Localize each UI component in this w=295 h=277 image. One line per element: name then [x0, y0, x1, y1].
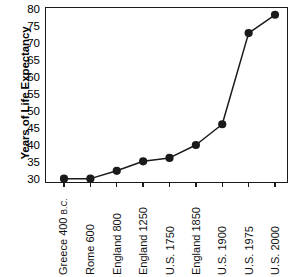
data-point-marker [192, 141, 200, 149]
x-tick-label: Rome 600 [83, 188, 97, 277]
y-tick-label: 55 [16, 89, 40, 100]
x-tick-label-text: U.S. 1975 [243, 226, 254, 275]
x-tick-label-text: U.S. 2000 [270, 226, 281, 275]
y-tick-label: 35 [16, 157, 40, 168]
x-tick-label-text: Rome 600 [85, 224, 96, 275]
x-tick-label: U.S. 1975 [242, 188, 256, 277]
y-tick-label: 45 [16, 123, 40, 134]
data-point-marker [139, 157, 147, 165]
x-tick-mark [169, 183, 170, 187]
x-tick-mark [195, 183, 196, 187]
x-tick-label: England 1850 [189, 188, 203, 277]
x-tick-mark [274, 183, 275, 187]
x-tick-label-text: U.S. 1750 [164, 226, 175, 275]
x-tick-label-text: England 800 [111, 213, 122, 275]
data-point-marker [271, 11, 279, 19]
data-point-marker [113, 167, 121, 175]
x-tick-mark [142, 183, 143, 187]
x-tick-label-text: Greece 400 B.C. [58, 198, 70, 275]
x-tick-label: England 1250 [136, 188, 150, 277]
x-tick-label: U.S. 1900 [215, 188, 229, 277]
x-tick-mark [116, 183, 117, 187]
data-point-marker [165, 154, 173, 162]
x-tick-mark [90, 183, 91, 187]
series-markers [60, 11, 279, 183]
y-tick-label: 60 [16, 72, 40, 83]
data-point-marker [245, 29, 253, 37]
y-axis-tick-labels: 8075706560555045403530 [16, 0, 40, 190]
data-point-marker [60, 175, 68, 183]
y-tick-label: 80 [16, 4, 40, 15]
x-tick-label-text: England 1250 [138, 207, 149, 275]
x-tick-label: U.S. 1750 [163, 188, 177, 277]
y-tick-label: 40 [16, 140, 40, 151]
x-tick-mark [248, 183, 249, 187]
y-tick-label: 65 [16, 55, 40, 66]
x-tick-label: England 800 [110, 188, 124, 277]
x-tick-label: Greece 400 B.C. [57, 188, 71, 277]
x-tick-label-text: England 1850 [190, 207, 201, 275]
data-point-marker [218, 120, 226, 128]
x-tick-label-text: U.S. 1900 [217, 226, 228, 275]
y-tick-label: 75 [16, 21, 40, 32]
x-tick-mark [222, 183, 223, 187]
life-expectancy-line-chart: Years of Life Expectancy 807570656055504… [0, 0, 295, 277]
x-tick-mark [63, 183, 64, 187]
data-series-plot [45, 7, 288, 183]
y-tick-label: 70 [16, 38, 40, 49]
x-axis-tick-labels: Greece 400 B.C.Rome 600England 800Englan… [0, 188, 295, 277]
y-tick-label: 50 [16, 106, 40, 117]
data-point-marker [86, 175, 94, 183]
x-tick-label: U.S. 2000 [268, 188, 282, 277]
